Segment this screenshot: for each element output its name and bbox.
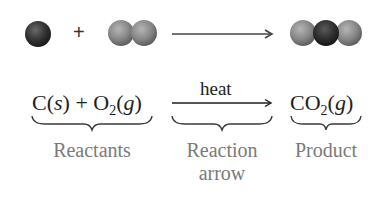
carbon-atom-icon <box>25 21 51 47</box>
reaction-arrow-brace-icon <box>172 116 272 130</box>
plus-sign: + <box>73 21 85 44</box>
carbon-dioxide-molecule-icon <box>290 20 362 46</box>
reaction-arrow-label-line2: arrow <box>172 162 272 185</box>
oxygen-molecule-icon <box>108 20 157 46</box>
reactants-brace-icon <box>32 116 152 130</box>
reaction-arrow-icon <box>172 30 272 38</box>
molecule-row <box>0 0 384 70</box>
product-label: Product <box>286 139 366 162</box>
product-brace-icon <box>291 116 361 130</box>
reactants-label: Reactants <box>32 139 152 162</box>
product-formula: CO2(g) <box>290 92 353 114</box>
reaction-arrow-label: Reaction arrow <box>172 139 272 185</box>
equation-arrow-icon <box>172 100 271 107</box>
reaction-arrow-label-line1: Reaction <box>172 139 272 162</box>
